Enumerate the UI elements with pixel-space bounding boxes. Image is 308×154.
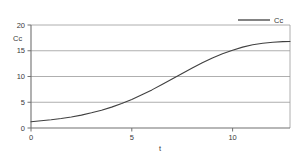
x-tick-label-10: 10 bbox=[228, 133, 236, 142]
y-tick-label-15: 15 bbox=[17, 46, 25, 55]
y-tick-label-20: 20 bbox=[17, 21, 25, 30]
legend-label-cc: Cc bbox=[274, 16, 283, 25]
y-tick-label-10: 10 bbox=[17, 72, 25, 81]
x-tick-label-0: 0 bbox=[29, 133, 33, 142]
line-chart: 20 15 10 5 0 Cc 0 5 10 t Cc bbox=[0, 0, 308, 154]
chart-background bbox=[0, 0, 308, 154]
y-axis-title: Cc bbox=[13, 34, 22, 43]
x-tick-label-5: 5 bbox=[130, 133, 134, 142]
chart-container: 20 15 10 5 0 Cc 0 5 10 t Cc bbox=[0, 0, 308, 154]
y-tick-label-0: 0 bbox=[21, 124, 25, 133]
y-tick-label-5: 5 bbox=[21, 98, 25, 107]
